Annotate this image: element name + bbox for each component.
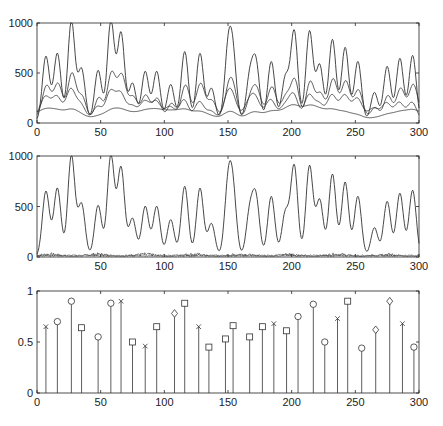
x-tick-label: 300 bbox=[410, 260, 428, 272]
x-tick-label: 150 bbox=[219, 260, 237, 272]
y-tick-label: 500 bbox=[15, 201, 33, 213]
square-marker bbox=[182, 300, 188, 306]
x-tick-label: 0 bbox=[34, 396, 40, 408]
x-tick-label: 0 bbox=[34, 126, 40, 138]
y-tick-label: 500 bbox=[15, 67, 33, 79]
stem bbox=[68, 298, 74, 393]
y-tick-label: 0 bbox=[27, 387, 33, 399]
diamond-marker bbox=[172, 310, 178, 318]
square-marker bbox=[230, 323, 236, 329]
stem bbox=[154, 324, 160, 393]
square-marker bbox=[222, 336, 228, 342]
diamond-marker bbox=[387, 297, 393, 305]
stem bbox=[359, 345, 365, 393]
y-tick-label: 1000 bbox=[9, 17, 33, 29]
stem bbox=[196, 324, 201, 393]
stem bbox=[79, 325, 85, 393]
stem bbox=[284, 328, 290, 393]
circle-marker bbox=[322, 339, 328, 345]
x-tick-label: 300 bbox=[410, 396, 428, 408]
square-marker bbox=[284, 328, 290, 334]
square-marker bbox=[154, 324, 160, 330]
x-tick-label: 300 bbox=[410, 126, 428, 138]
stem bbox=[295, 313, 301, 393]
y-tick-label: 0 bbox=[27, 251, 33, 263]
y-tick-label: 0.5 bbox=[18, 336, 33, 348]
stem bbox=[130, 339, 136, 393]
x-tick-label: 100 bbox=[155, 126, 173, 138]
stem bbox=[400, 321, 405, 393]
circle-marker bbox=[359, 345, 365, 351]
circle-marker bbox=[95, 334, 101, 340]
x-tick-label: 200 bbox=[282, 260, 300, 272]
middle-line-chart: 5010015020025030005001000 bbox=[9, 150, 429, 272]
stem bbox=[206, 344, 212, 393]
stem bbox=[345, 298, 351, 393]
stem bbox=[108, 300, 114, 393]
x-tick-label: 100 bbox=[155, 260, 173, 272]
circle-marker bbox=[54, 318, 60, 324]
figure: 05010015020025030005001000 5010015020025… bbox=[0, 0, 443, 426]
circle-marker bbox=[310, 301, 316, 307]
x-tick-label: 250 bbox=[346, 396, 364, 408]
x-tick-label: 150 bbox=[219, 396, 237, 408]
line-series-reconstruction bbox=[37, 156, 419, 254]
stem bbox=[387, 297, 393, 393]
square-marker bbox=[130, 339, 136, 345]
stem bbox=[230, 323, 236, 393]
square-marker bbox=[259, 324, 265, 330]
stem bbox=[222, 336, 228, 393]
square-marker bbox=[206, 344, 212, 350]
circle-marker bbox=[295, 313, 301, 319]
stem bbox=[182, 300, 188, 393]
stem bbox=[119, 299, 124, 393]
y-tick-label: 0 bbox=[27, 117, 33, 129]
stem bbox=[172, 310, 178, 393]
x-tick-label: 250 bbox=[346, 260, 364, 272]
diamond-marker bbox=[373, 326, 379, 334]
stem bbox=[95, 334, 101, 393]
x-tick-label: 50 bbox=[95, 260, 107, 272]
circle-marker bbox=[411, 344, 417, 350]
x-tick-label: 50 bbox=[95, 126, 107, 138]
stem bbox=[247, 334, 253, 393]
x-tick-label: 50 bbox=[95, 396, 107, 408]
square-marker bbox=[345, 298, 351, 304]
x-tick-label: 100 bbox=[155, 396, 173, 408]
x-tick-label: 150 bbox=[219, 126, 237, 138]
stem bbox=[322, 339, 328, 393]
y-tick-label: 1000 bbox=[9, 150, 33, 162]
y-tick-label: 1 bbox=[27, 285, 33, 297]
stem bbox=[143, 344, 148, 393]
x-tick-label: 250 bbox=[346, 126, 364, 138]
x-tick-label: 200 bbox=[282, 396, 300, 408]
stem bbox=[411, 344, 417, 393]
circle-marker bbox=[68, 298, 74, 304]
stem bbox=[44, 324, 49, 393]
x-tick-label: 200 bbox=[282, 126, 300, 138]
stem bbox=[272, 321, 277, 393]
stem bbox=[310, 301, 316, 393]
square-marker bbox=[247, 334, 253, 340]
stem bbox=[54, 318, 60, 393]
stem bbox=[335, 316, 340, 393]
bottom-stem-chart: 05010015020025030000.51 bbox=[18, 285, 428, 408]
stem bbox=[373, 326, 379, 393]
top-line-chart: 05010015020025030005001000 bbox=[9, 17, 429, 138]
stem bbox=[259, 324, 265, 393]
square-marker bbox=[79, 325, 85, 331]
circle-marker bbox=[108, 300, 114, 306]
